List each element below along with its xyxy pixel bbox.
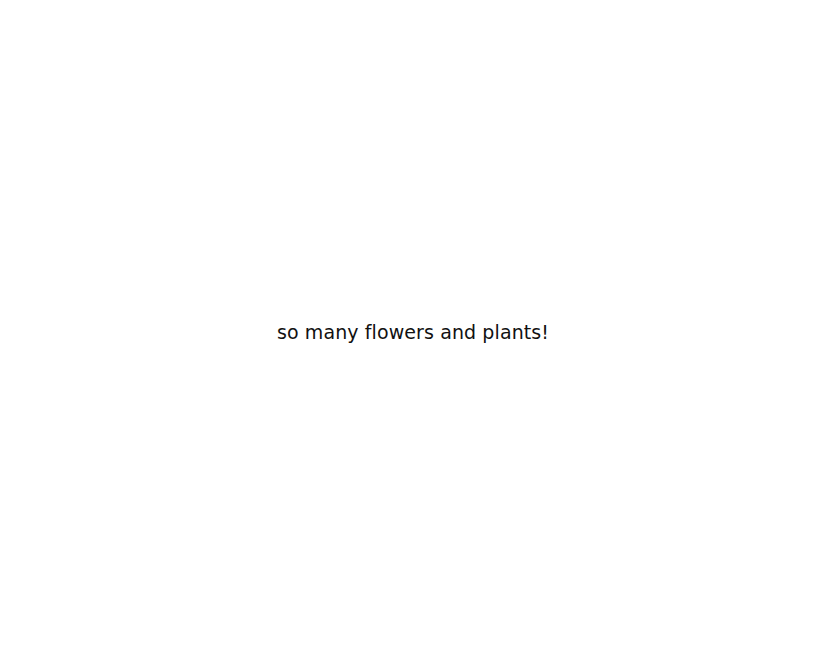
blank-page: so many flowers and plants!	[0, 0, 818, 664]
centered-message: so many flowers and plants!	[0, 318, 818, 346]
